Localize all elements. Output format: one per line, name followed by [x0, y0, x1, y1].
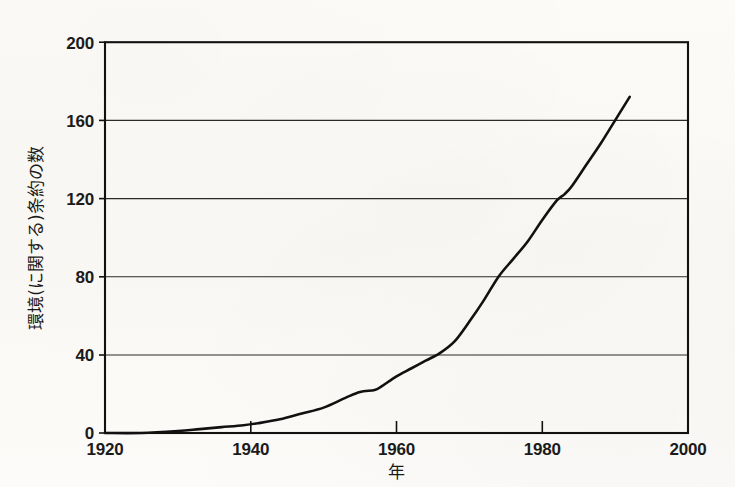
y-tick-label-80: 80: [75, 268, 94, 287]
gridlines: [105, 120, 688, 355]
y-tick-label-200: 200: [66, 34, 94, 53]
x-axis-title: 年: [388, 462, 405, 482]
x-tick-label-1940: 1940: [232, 440, 269, 459]
x-tick-label-1960: 1960: [378, 440, 415, 459]
x-tick-label-2000: 2000: [669, 440, 706, 459]
y-tick-label-40: 40: [75, 346, 94, 365]
y-tick-labels: 200 160 120 80 40 0: [66, 34, 94, 443]
y-tick-label-120: 120: [66, 190, 94, 209]
chart-page: 200 160 120 80 40 0 1920 1940 1960 1980 …: [0, 0, 735, 487]
y-axis-title: 環境(に関する)条約の数: [26, 146, 46, 329]
x-tick-label-1980: 1980: [524, 440, 561, 459]
x-tick-label-1920: 1920: [86, 440, 123, 459]
line-chart: 200 160 120 80 40 0 1920 1940 1960 1980 …: [0, 0, 735, 487]
y-tick-label-160: 160: [66, 112, 94, 131]
x-tick-marks: [251, 421, 543, 433]
data-series-line: [105, 97, 630, 433]
plot-frame: [105, 42, 688, 433]
x-tick-labels: 1920 1940 1960 1980 2000: [86, 440, 706, 459]
